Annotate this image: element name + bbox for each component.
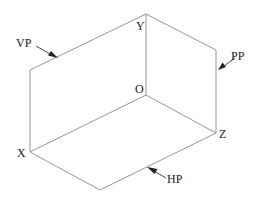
- profile-plane: [146, 14, 216, 133]
- hp-left-edge: [30, 152, 100, 190]
- horizontal-plane: [30, 133, 216, 190]
- pp-top-edge: [146, 14, 216, 50]
- pp-label: PP: [231, 49, 245, 63]
- projection-planes-diagram: VP PP HP Y O X Z: [0, 0, 260, 198]
- vp-top-edge: [30, 14, 146, 70]
- x-axis-label: X: [17, 146, 26, 160]
- pp-arrowhead-icon: [218, 63, 226, 71]
- vp-arrowhead-icon: [48, 51, 58, 58]
- origin-label: O: [135, 82, 144, 96]
- hp-arrowhead-icon: [147, 167, 158, 174]
- vertical-plane: [30, 14, 146, 152]
- hp-leader-arrow: [147, 167, 166, 178]
- x-axis: [30, 95, 146, 152]
- vp-leader-arrow: [36, 46, 58, 58]
- vp-label: VP: [16, 36, 32, 50]
- z-axis: [146, 95, 216, 133]
- z-axis-label: Z: [219, 127, 226, 141]
- y-axis-label: Y: [136, 19, 145, 33]
- hp-label: HP: [167, 172, 183, 186]
- hp-right-edge: [100, 133, 216, 190]
